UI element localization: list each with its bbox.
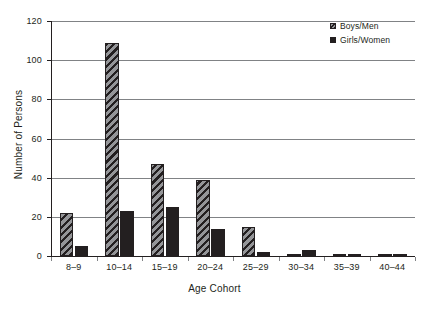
y-tick-mark [47,99,51,100]
x-tick-label: 40–44 [370,262,416,272]
y-tick-label: 100 [26,56,42,65]
y-tick-label: 40 [32,174,42,183]
x-tick-label: 8–9 [51,262,97,272]
y-tick-label: 0 [37,252,42,261]
chart-legend: Boys/MenGirls/Women [330,20,390,48]
bar-boys-men-10–14 [105,43,119,256]
y-tick-mark [47,139,51,140]
bar-girls-women-10–14 [120,211,134,256]
x-tick-label: 35–39 [324,262,370,272]
y-tick-label: 80 [32,95,42,104]
y-tick-mark [47,60,51,61]
legend-item-label: Girls/Women [340,34,390,46]
plot-area [51,21,415,256]
bar-chart: 020406080100120 8–910–1415–1920–2425–293… [0,0,429,314]
x-tick-mark [188,257,189,261]
x-tick-mark [415,257,416,261]
x-tick-label: 15–19 [142,262,188,272]
solid-square-icon [330,37,336,43]
bar-girls-women-8–9 [75,246,89,256]
legend-item: Girls/Women [330,34,390,46]
y-tick-label: 60 [32,135,42,144]
x-tick-mark [142,257,143,261]
y-tick-label: 120 [26,17,42,26]
y-tick-mark [47,178,51,179]
bar-girls-women-15–19 [166,207,180,256]
bar-boys-men-15–19 [151,164,165,256]
x-tick-mark [370,257,371,261]
x-tick-mark [97,257,98,261]
x-tick-label: 30–34 [279,262,325,272]
x-tick-mark [51,257,52,261]
x-tick-label: 10–14 [97,262,143,272]
x-axis-title: Age Cohort [0,283,429,294]
x-tick-label: 25–29 [233,262,279,272]
y-axis-line [51,21,52,257]
hatched-square-icon [330,23,336,29]
y-tick-label: 20 [32,213,42,222]
y-tick-mark [47,21,51,22]
bar-boys-men-25–29 [242,227,256,256]
legend-item-label: Boys/Men [340,20,379,32]
x-tick-mark [233,257,234,261]
x-tick-mark [279,257,280,261]
bar-girls-women-20–24 [211,229,225,256]
x-tick-label: 20–24 [188,262,234,272]
bar-boys-men-20–24 [196,180,210,256]
x-tick-mark [324,257,325,261]
y-tick-mark [47,217,51,218]
y-axis-title: Number of Persons [13,65,24,205]
legend-item: Boys/Men [330,20,390,32]
bar-boys-men-8–9 [60,213,74,256]
